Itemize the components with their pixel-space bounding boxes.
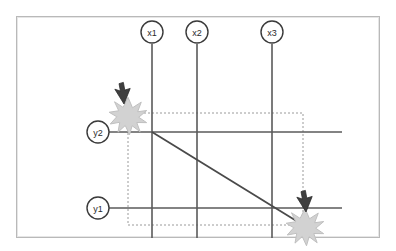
node-y2-label: y2 (93, 128, 103, 138)
node-x2-label: x2 (192, 28, 202, 38)
node-x3-label: x3 (267, 28, 277, 38)
node-x3[interactable]: x3 (261, 21, 283, 43)
diagram-frame (17, 17, 380, 238)
node-y1-label: y1 (93, 204, 103, 214)
diagram-svg: x1 x2 x3 y2 y1 (0, 0, 396, 251)
node-x1[interactable]: x1 (141, 21, 163, 43)
node-x2[interactable]: x2 (186, 21, 208, 43)
diagram-canvas: x1 x2 x3 y2 y1 (0, 0, 396, 251)
node-y2[interactable]: y2 (87, 121, 109, 143)
node-x1-label: x1 (147, 28, 157, 38)
node-y1[interactable]: y1 (87, 197, 109, 219)
